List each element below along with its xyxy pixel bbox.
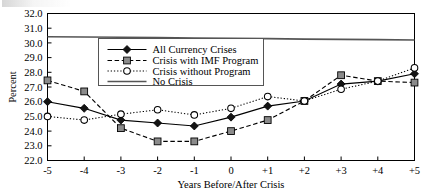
data-point-marker bbox=[44, 98, 52, 106]
y-tick-label: 27.0 bbox=[24, 82, 42, 93]
data-point-marker bbox=[44, 77, 51, 84]
data-point-marker bbox=[81, 88, 88, 95]
x-tick-label: -3 bbox=[117, 165, 126, 176]
x-axis-label: Years Before/After Crisis bbox=[178, 179, 285, 190]
legend-label: Crisis with IMF Program bbox=[153, 55, 259, 66]
x-tick-label: -5 bbox=[43, 165, 52, 176]
y-tick-label: 29.0 bbox=[24, 52, 42, 63]
data-point-marker bbox=[375, 78, 382, 85]
data-point-marker bbox=[264, 117, 271, 124]
x-tick-label: +2 bbox=[299, 165, 310, 176]
data-point-marker bbox=[228, 128, 235, 135]
data-point-marker bbox=[191, 112, 198, 119]
y-tick-label: 30.0 bbox=[24, 38, 42, 49]
data-point-marker bbox=[118, 111, 125, 118]
data-point-marker bbox=[154, 138, 161, 145]
data-point-marker bbox=[191, 138, 198, 145]
data-point-marker bbox=[154, 119, 162, 127]
legend-sample-marker bbox=[124, 57, 131, 64]
legend-label: No Crisis bbox=[153, 76, 193, 87]
y-tick-label: 24.0 bbox=[24, 126, 42, 137]
data-point-marker bbox=[338, 86, 345, 93]
data-point-marker bbox=[190, 122, 198, 130]
x-tick-label: -4 bbox=[80, 165, 89, 176]
data-point-marker bbox=[301, 98, 308, 105]
data-point-marker bbox=[80, 104, 88, 112]
y-tick-label: 23.0 bbox=[24, 140, 42, 151]
x-tick-label: -2 bbox=[153, 165, 162, 176]
y-tick-label: 31.0 bbox=[24, 23, 42, 34]
legend-label: All Currency Crises bbox=[153, 44, 237, 55]
data-point-marker bbox=[264, 93, 271, 100]
y-tick-label: 25.0 bbox=[24, 111, 42, 122]
plot-frame bbox=[48, 14, 415, 161]
legend-label: Crisis without Program bbox=[153, 66, 251, 77]
data-point-marker bbox=[154, 106, 161, 113]
cropped-text-artifact bbox=[2, 0, 72, 7]
data-point-marker bbox=[338, 72, 345, 79]
x-tick-label: +5 bbox=[409, 165, 420, 176]
y-tick-label: 26.0 bbox=[24, 96, 42, 107]
y-tick-label: 32.0 bbox=[24, 8, 42, 19]
x-tick-label: +3 bbox=[336, 165, 347, 176]
data-point-marker bbox=[227, 113, 235, 121]
data-point-marker bbox=[44, 113, 51, 120]
x-tick-label: +1 bbox=[262, 165, 273, 176]
y-tick-label: 28.0 bbox=[24, 67, 42, 78]
y-tick-label: 22.0 bbox=[24, 155, 42, 166]
data-point-marker bbox=[118, 125, 125, 132]
data-point-marker bbox=[81, 117, 88, 124]
data-point-marker bbox=[411, 79, 418, 86]
data-point-marker bbox=[411, 65, 418, 72]
legend-sample-marker bbox=[124, 68, 131, 75]
y-axis-label: Percent bbox=[7, 71, 18, 103]
line-chart: 32.031.030.029.028.027.026.025.024.023.0… bbox=[0, 0, 424, 193]
data-point-marker bbox=[264, 102, 272, 110]
x-tick-label: -1 bbox=[190, 165, 199, 176]
chart-figure: 32.031.030.029.028.027.026.025.024.023.0… bbox=[0, 0, 424, 193]
x-tick-label: 0 bbox=[228, 165, 233, 176]
data-point-marker bbox=[228, 105, 235, 112]
x-tick-label: +4 bbox=[372, 165, 384, 176]
